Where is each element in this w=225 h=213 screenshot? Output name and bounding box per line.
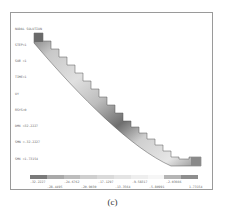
legend-label: -17.1297 (98, 180, 113, 184)
staircase-shape (34, 33, 201, 166)
legend-label: -28.4495 (47, 185, 62, 189)
top-block (34, 33, 43, 42)
legend-label: 1.73154 (189, 185, 202, 189)
staircase-contour (11, 13, 214, 191)
legend-label: -32.2227 (30, 180, 45, 184)
end-block (191, 157, 201, 166)
legend-label: -9.58317 (132, 180, 147, 184)
legend-label: -20.9030 (81, 185, 96, 189)
figure-caption: (c) (0, 197, 225, 207)
contour-plot-frame: NODAL SOLUTION STEP=1 SUB =1 TIME=1 UY R… (10, 12, 213, 190)
color-legend-bar (30, 175, 198, 179)
legend-label: -24.6762 (64, 180, 79, 184)
legend-label: -13.3564 (115, 185, 130, 189)
legend-label: -2.03666 (166, 180, 181, 184)
legend-label: -5.80991 (149, 185, 164, 189)
